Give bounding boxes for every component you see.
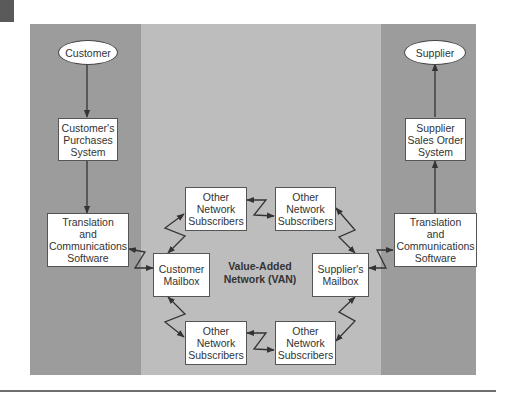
bottom-rule	[0, 390, 496, 392]
van-label: Value-Added Network (VAN)	[215, 260, 305, 286]
subscribers-box-top-left: Other Network Subscribers	[185, 187, 247, 231]
customer-terminal: Customer	[58, 40, 118, 65]
customer-purchases-system-box: Customer's Purchases System	[58, 118, 118, 161]
link-translation-left-customer-mailbox	[129, 249, 153, 268]
link-customer-mailbox-bottom-left	[165, 297, 185, 337]
link-top-subscribers	[247, 200, 274, 216]
supplier-translation-software-box: Translation and Communications Software	[394, 213, 477, 267]
link-customer-mailbox-top-left	[165, 214, 185, 253]
subscribers-box-bottom-right: Other Network Subscribers	[275, 321, 336, 365]
link-bottom-subscribers	[247, 333, 274, 350]
supplier-sales-order-system-box: Supplier Sales Order System	[405, 118, 466, 161]
subscribers-box-top-right: Other Network Subscribers	[275, 187, 336, 231]
link-top-right-supplier-mailbox	[336, 208, 355, 253]
subscribers-box-bottom-left: Other Network Subscribers	[185, 321, 247, 365]
link-bottom-right-supplier-mailbox	[336, 297, 355, 341]
customer-translation-software-box: Translation and Communications Software	[47, 213, 129, 267]
link-supplier-mailbox-translation-right	[369, 250, 393, 268]
customer-mailbox-box: Customer Mailbox	[153, 253, 210, 297]
supplier-mailbox-box: Supplier's Mailbox	[312, 253, 369, 297]
supplier-terminal: Supplier	[404, 40, 466, 65]
